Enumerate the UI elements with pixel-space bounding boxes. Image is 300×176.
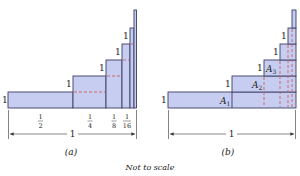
bar-a-4	[122, 44, 130, 108]
bar-a-6	[134, 10, 137, 108]
caption-b: (b)	[222, 147, 235, 157]
footnote: Not to scale	[125, 163, 175, 172]
total-width-label-a: 1	[70, 129, 76, 139]
row-b-6	[292, 10, 296, 28]
bar-a-3	[106, 60, 122, 108]
bars-a	[8, 10, 137, 108]
height-label-b-1: 1	[161, 95, 167, 105]
height-label-b-2: 1	[225, 79, 231, 89]
total-width-label-b: 1	[229, 129, 235, 139]
fraction-eighth: 1 8	[112, 113, 117, 130]
height-label-a-1: 1	[2, 95, 8, 105]
bar-a-1	[8, 92, 73, 108]
svg-text:4: 4	[88, 122, 92, 130]
svg-text:1: 1	[112, 113, 116, 121]
svg-text:1: 1	[88, 113, 92, 121]
fraction-quarter: 1 4	[88, 113, 93, 130]
svg-text:1: 1	[38, 113, 42, 121]
diagram-b: 1 1 1 1 1 A1 A2 A3 1 (b)	[161, 10, 296, 157]
svg-text:16: 16	[123, 122, 131, 130]
height-label-b-4: 1	[273, 47, 279, 57]
svg-text:1: 1	[125, 113, 129, 121]
height-label-a-2: 1	[66, 79, 72, 89]
svg-text:2: 2	[38, 122, 42, 130]
figure: 1 1 1 1 1 1 2 1 4 1 8 1 16	[0, 0, 300, 176]
svg-text:8: 8	[112, 122, 116, 130]
fraction-sixteenth: 1 16	[123, 113, 131, 130]
height-label-b-3: 1	[257, 63, 263, 73]
fraction-half: 1 2	[38, 113, 43, 130]
height-label-b-5: 1	[281, 31, 287, 41]
caption-a: (a)	[65, 147, 78, 157]
height-label-a-5: 1	[123, 31, 129, 41]
height-label-a-3: 1	[99, 63, 105, 73]
bar-a-5	[130, 28, 134, 108]
diagram-a: 1 1 1 1 1 1 2 1 4 1 8 1 16	[2, 10, 137, 157]
height-label-a-4: 1	[115, 47, 121, 57]
